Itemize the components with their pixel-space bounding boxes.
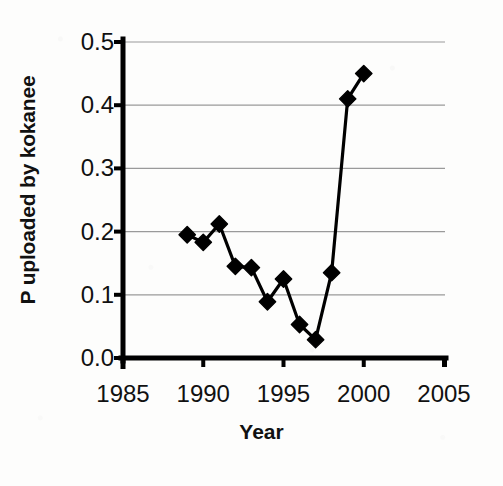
data-markers-group (179, 65, 372, 347)
y-tick-label: 0.2 (48, 218, 114, 246)
data-point-marker (323, 264, 339, 280)
x-tick-label: 1995 (257, 380, 310, 408)
x-axis-title: Year (0, 420, 503, 444)
gridlines-group (123, 42, 445, 295)
data-point-marker (243, 259, 259, 275)
y-tick-label: 0.1 (48, 281, 114, 309)
y-tick-label: 0.0 (48, 344, 114, 372)
y-axis-title: P uploaded by kokanee (6, 0, 50, 380)
y-axis-title-text: P uploaded by kokanee (16, 76, 40, 305)
axes-group (121, 39, 446, 367)
x-tick-label: 1985 (96, 380, 149, 408)
x-tick-label: 1990 (177, 380, 230, 408)
data-point-marker (179, 227, 195, 243)
x-tick-label: 2000 (337, 380, 390, 408)
data-line-series (187, 74, 364, 340)
chart-figure: 0.00.10.20.30.40.5 19851990199520002005 … (0, 0, 503, 486)
y-tick-label: 0.5 (48, 28, 114, 56)
x-tick-label: 2005 (417, 380, 470, 408)
data-point-marker (227, 258, 243, 274)
data-point-marker (356, 65, 372, 81)
y-tick-label: 0.3 (48, 154, 114, 182)
data-polyline (187, 74, 364, 340)
y-tick-label: 0.4 (48, 91, 114, 119)
